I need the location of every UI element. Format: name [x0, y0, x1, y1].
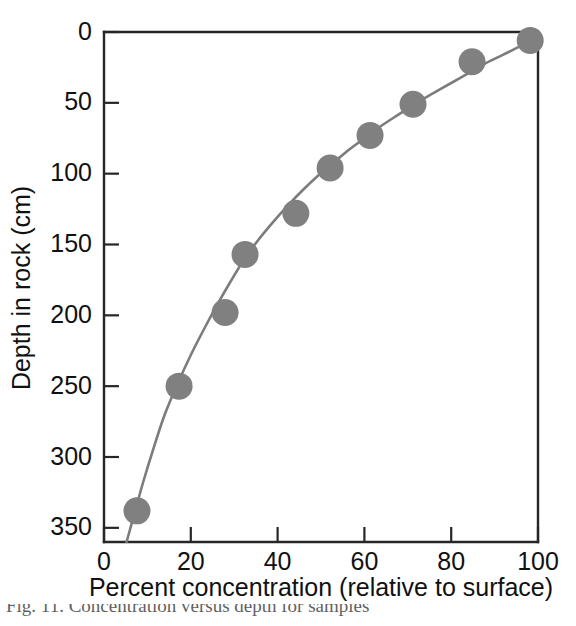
- y-tick-label-100: 100: [50, 158, 92, 186]
- x-tick-label-80: 80: [437, 547, 465, 575]
- y-axis-ticks: [104, 32, 119, 528]
- data-point-9: 84.8% at 21 cm: [459, 48, 486, 75]
- caption-strip: Fig. 11. Concentration versus depth for …: [0, 604, 576, 626]
- y-axis-tick-labels: 050100150200250300350: [50, 17, 92, 541]
- data-point-1: 7.6% at 338 cm: [123, 497, 150, 524]
- data-point-3: 27.9% at 198 cm: [212, 299, 239, 326]
- y-tick-label-250: 250: [50, 371, 92, 399]
- x-tick-label-0: 0: [97, 547, 111, 575]
- concentration-depth-scatter-plot: 050100150200250300350 Depth in rock (cm)…: [0, 0, 576, 626]
- chart-figure: 050100150200250300350 Depth in rock (cm)…: [0, 0, 576, 626]
- x-axis-title: Percent concentration (relative to surfa…: [89, 573, 553, 601]
- data-point-5: 44.2% at 128 cm: [282, 200, 309, 227]
- data-point-2: 17.3% at 250 cm: [166, 373, 193, 400]
- data-point-4: 32.5% at 157 cm: [232, 241, 259, 268]
- y-tick-label-150: 150: [50, 229, 92, 257]
- data-point-8: 71.2% at 51 cm: [400, 91, 427, 118]
- y-axis-group: 050100150200250300350 Depth in rock (cm): [7, 17, 119, 542]
- figure-caption: Fig. 11. Concentration versus depth for …: [6, 604, 369, 617]
- data-points-group: 7.6% at 338 cm17.3% at 250 cm27.9% at 19…: [123, 27, 543, 524]
- y-tick-label-200: 200: [50, 300, 92, 328]
- x-tick-label-60: 60: [350, 547, 378, 575]
- y-tick-label-0: 0: [78, 17, 92, 45]
- data-point-10: 98.2% at 6 cm: [517, 27, 544, 54]
- x-axis-ticks: [104, 527, 538, 542]
- x-axis-group: 020406080100 Percent concentration (rela…: [89, 32, 559, 601]
- fit-curve-group: [127, 39, 536, 542]
- y-tick-label-50: 50: [64, 87, 92, 115]
- fit-curve-path: [127, 39, 536, 542]
- y-tick-label-350: 350: [50, 512, 92, 540]
- x-tick-label-40: 40: [264, 547, 292, 575]
- data-point-7: 61.3% at 73 cm: [357, 122, 384, 149]
- y-axis-title: Depth in rock (cm): [7, 186, 35, 390]
- x-tick-label-20: 20: [177, 547, 205, 575]
- x-tick-label-100: 100: [517, 547, 559, 575]
- data-point-6: 52.1% at 96 cm: [317, 155, 344, 182]
- x-axis-tick-labels: 020406080100: [97, 547, 559, 575]
- y-tick-label-300: 300: [50, 442, 92, 470]
